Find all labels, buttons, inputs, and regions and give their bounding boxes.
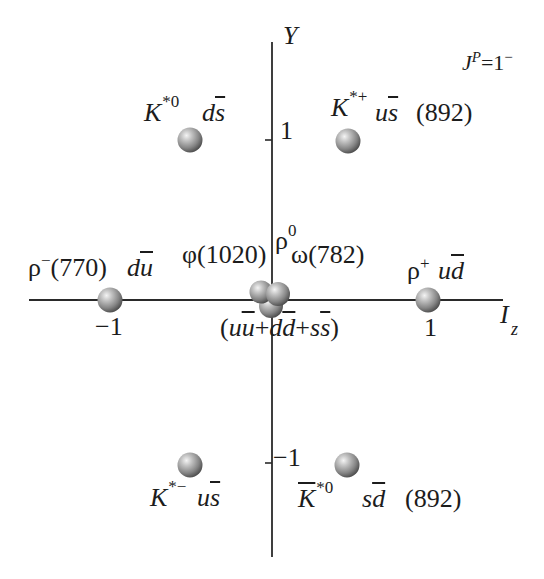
antiquark: s <box>210 483 220 512</box>
mass-k-star-0-bar: (892) <box>405 486 461 512</box>
k-star-minus-symbol: K <box>150 483 167 512</box>
x-tick-label-plus-one: 1 <box>424 315 437 341</box>
mix-close-paren: ) <box>330 313 339 342</box>
x-axis-label-main: I <box>500 300 509 329</box>
mix-u: u <box>229 313 242 342</box>
quark-content-k-star-plus: us <box>375 100 398 126</box>
mix-d-bar: d <box>282 313 295 342</box>
vector-meson-nonet-diagram: Y I z JP=1− 1 −1 −1 1 K*0 ds K*+ us (892… <box>0 0 544 579</box>
k-star-minus-sup: *− <box>168 477 186 496</box>
rho-minus-mass: (770) <box>51 253 107 282</box>
mix-s-bar: s <box>320 313 330 342</box>
ball-center-right <box>266 282 290 306</box>
ball-rho-plus <box>416 288 441 313</box>
ball-k-star-0 <box>178 128 203 153</box>
quark-content-k-star-minus: us <box>197 485 220 511</box>
quark-content-rho-minus: du <box>127 255 153 281</box>
k-star-plus-sup: *+ <box>349 87 367 106</box>
label-k-star-0-bar: K*0 <box>298 486 333 512</box>
k-star-0-bar-sup: *0 <box>316 478 333 497</box>
x-axis-label-subscript: z <box>511 320 518 338</box>
antiquark: u <box>140 253 153 282</box>
k-star-0-bar-symbol: K <box>298 484 315 513</box>
mix-plus-2: + <box>295 313 310 342</box>
rho-plus-symbol: ρ <box>407 256 420 285</box>
quark-content-rho-plus: ud <box>438 258 464 284</box>
quark: u <box>375 98 388 127</box>
mix-s: s <box>310 313 320 342</box>
phi-mass: (1020) <box>197 240 266 269</box>
neutral-quark-mix: (uu+dd+ss) <box>220 315 339 341</box>
mix-plus-1: + <box>255 313 270 342</box>
quark: s <box>362 484 372 513</box>
antiquark: d <box>451 256 464 285</box>
antiquark: s <box>388 98 398 127</box>
jp-p: P <box>472 49 481 65</box>
k-star-plus-symbol: K <box>331 93 348 122</box>
phi-symbol: φ <box>182 240 197 269</box>
ball-k-star-minus <box>178 453 203 478</box>
ball-k-star-0-bar <box>335 453 360 478</box>
label-k-star-0: K*0 <box>144 100 179 126</box>
label-phi: φ(1020) <box>182 242 266 268</box>
quark: u <box>197 483 210 512</box>
jp-parity: − <box>504 49 512 65</box>
omega-symbol: ω <box>291 240 308 269</box>
antiquark: s <box>215 98 225 127</box>
rho-zero-sup: 0 <box>288 221 297 240</box>
plot-area <box>0 0 544 579</box>
y-tick-label-minus-one: −1 <box>273 445 301 471</box>
ball-rho-minus <box>98 288 123 313</box>
rho-zero-symbol: ρ <box>275 226 288 255</box>
omega-mass: (782) <box>308 240 364 269</box>
ball-k-star-plus <box>336 129 361 154</box>
quark: d <box>202 98 215 127</box>
rho-plus-sup: + <box>420 254 430 273</box>
mix-u-bar: u <box>242 313 255 342</box>
antiquark: d <box>372 484 385 513</box>
label-omega: ω(782) <box>291 242 364 268</box>
label-k-star-plus: K*+ <box>331 95 367 121</box>
x-axis-label: I <box>500 302 509 328</box>
rho-minus-symbol: ρ <box>28 253 41 282</box>
quark-content-k-star-0: ds <box>202 100 225 126</box>
jp-label: JP=1− <box>462 52 513 74</box>
quark-content-k-star-0-bar: sd <box>362 486 385 512</box>
mix-open-paren: ( <box>220 313 229 342</box>
quark: u <box>438 256 451 285</box>
rho-minus-sup: − <box>41 251 51 270</box>
mix-d: d <box>269 313 282 342</box>
jp-j: J <box>462 50 472 75</box>
k-star-0-symbol: K <box>144 98 161 127</box>
jp-value: =1 <box>481 50 504 75</box>
label-k-star-minus: K*− <box>150 485 186 511</box>
y-tick-label-plus-one: 1 <box>280 118 293 144</box>
label-rho-plus: ρ+ <box>407 258 430 284</box>
mass-k-star-plus: (892) <box>416 100 472 126</box>
k-star-0-sup: *0 <box>162 92 179 111</box>
y-axis-label: Y <box>283 23 297 49</box>
label-rho-minus: ρ−(770) <box>28 255 107 281</box>
x-tick-label-minus-one: −1 <box>95 314 123 340</box>
quark: d <box>127 253 140 282</box>
